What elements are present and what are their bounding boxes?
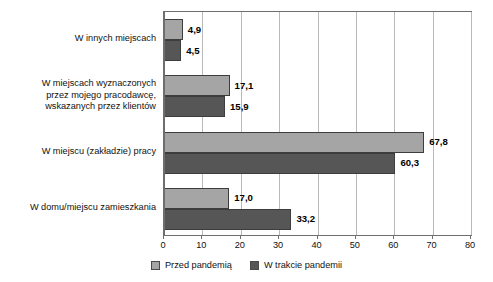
bar [164, 75, 230, 96]
gridline [279, 12, 280, 235]
gridline [356, 12, 357, 235]
category-label-line: W innych miejscach [75, 33, 156, 45]
bar-chart: W domu/miejscu zamieszkaniaW miejscu (za… [0, 0, 493, 282]
category-axis-labels: W domu/miejscu zamieszkaniaW miejscu (za… [0, 11, 160, 236]
category-label-line: przez mojego pracodawcę, [42, 90, 156, 102]
x-tick-mark [163, 236, 164, 239]
bar [164, 132, 424, 153]
gridline [433, 12, 434, 235]
plot-area: 17,033,267,860,317,115,94,94,5 [163, 11, 472, 236]
legend-item[interactable]: Przed pandemią [151, 260, 232, 270]
gridline [471, 12, 472, 235]
category-label-line: wskazanych przez klientów [42, 101, 156, 113]
category-label-line: W miejscu (zakładzie) pracy [42, 146, 156, 158]
bar-value-label: 67,8 [429, 137, 448, 147]
bar [164, 153, 395, 174]
bar [164, 40, 181, 61]
category-label-line: W domu/miejscu zamieszkania [30, 202, 156, 214]
x-tick-mark [393, 236, 394, 239]
gridline [394, 12, 395, 235]
x-tick-mark [470, 236, 471, 239]
x-tick-mark [432, 236, 433, 239]
bar [164, 96, 225, 117]
legend-swatch-icon [250, 261, 259, 270]
bar-value-label: 4,5 [186, 46, 199, 56]
x-tick-mark [201, 236, 202, 239]
x-tick-mark [355, 236, 356, 239]
x-tick-label: 40 [311, 240, 321, 250]
x-tick-label: 10 [196, 240, 206, 250]
bar-value-label: 17,0 [234, 193, 253, 203]
x-tick-label: 50 [350, 240, 360, 250]
x-tick-mark [240, 236, 241, 239]
x-tick-label: 80 [465, 240, 475, 250]
category-label: W miejscu (zakładzie) pracy [42, 146, 156, 158]
bar [164, 19, 183, 40]
x-tick-label: 0 [160, 240, 165, 250]
legend-label: Przed pandemią [165, 260, 232, 270]
legend-label: W trakcie pandemii [264, 260, 342, 270]
gridline [318, 12, 319, 235]
legend-swatch-icon [151, 261, 160, 270]
x-tick-mark [317, 236, 318, 239]
x-tick-label: 30 [273, 240, 283, 250]
bar-value-label: 17,1 [235, 81, 254, 91]
category-label: W domu/miejscu zamieszkania [30, 202, 156, 214]
bar [164, 188, 229, 209]
bar-value-label: 33,2 [296, 214, 315, 224]
x-tick-label: 70 [427, 240, 437, 250]
chart-legend: Przed pandemiąW trakcie pandemii [0, 260, 493, 270]
x-tick-label: 20 [235, 240, 245, 250]
bar [164, 209, 291, 230]
x-tick-mark [278, 236, 279, 239]
legend-item[interactable]: W trakcie pandemii [250, 260, 342, 270]
category-label: W innych miejscach [75, 33, 156, 45]
bar-value-label: 4,9 [188, 25, 201, 35]
x-tick-label: 60 [388, 240, 398, 250]
bar-value-label: 60,3 [400, 158, 419, 168]
bar-value-label: 15,9 [230, 102, 249, 112]
x-axis: 01020304050607080 [163, 236, 472, 252]
category-label-line: W miejscach wyznaczonych [42, 78, 156, 90]
category-label: W miejscach wyznaczonychprzez mojego pra… [42, 78, 156, 113]
value-axis-baseline [164, 12, 165, 235]
